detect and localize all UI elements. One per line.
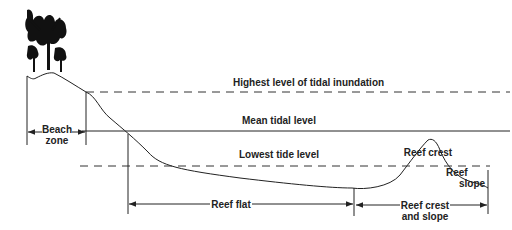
highest-tide-label: Highest level of tidal inundation	[233, 77, 384, 88]
palm-trees-icon	[25, 9, 66, 72]
lowest-tide-label: Lowest tide level	[239, 149, 319, 160]
beach-zone-label-1: Beach	[42, 124, 72, 135]
reef-crest-slope-label-2: and slope	[402, 211, 449, 222]
mean-tide-label: Mean tidal level	[242, 115, 316, 126]
reef-flat-label: Reef flat	[211, 199, 251, 210]
reef-crest-slope-label-1: Reef crest	[401, 200, 450, 211]
reef-profile-diagram: Highest level of tidal inundation Mean t…	[0, 0, 512, 230]
beach-zone-label-2: zone	[46, 135, 69, 146]
reef-slope-label-2: slope	[459, 178, 486, 189]
reef-slope-label-1: Reef	[446, 167, 468, 178]
reef-crest-label: Reef crest	[404, 147, 453, 158]
